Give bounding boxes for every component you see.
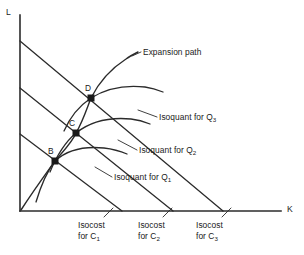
diagram-canvas: L K B C D Expansion path Isoquant for Q3… — [0, 0, 304, 255]
isocost-label-c1: Isocost for C1 — [78, 220, 106, 242]
isocost-label-c1-sub: 1 — [96, 235, 100, 242]
leader-line-isoquant-q3 — [138, 110, 157, 117]
tangency-point-d — [88, 95, 95, 102]
isoquant-curve-q3 — [64, 86, 163, 131]
isoquant-label-q3-sub: 3 — [213, 116, 217, 123]
isoquant-curve-q2 — [50, 119, 150, 172]
isoquant-label-q2: Isoquant for Q2 — [139, 145, 197, 156]
isocost-label-c3-line1: Isocost — [196, 220, 224, 230]
isoquant-label-q3: Isoquant for Q3 — [159, 112, 217, 123]
production-expansion-path-diagram: L K B C D Expansion path Isoquant for Q3… — [0, 0, 304, 255]
isocost-label-c2-sub: 2 — [156, 235, 160, 242]
isocost-label-c2-prefix: for C — [138, 231, 156, 241]
isocost-label-c2: Isocost for C2 — [138, 220, 166, 242]
isoquant-label-q1: Isoquant for Q1 — [114, 172, 172, 183]
point-label-c: C — [69, 118, 75, 128]
leader-lines-group — [95, 52, 231, 217]
expansion-path-label: Expansion path — [143, 47, 202, 57]
isoquant-label-q1-prefix: Isoquant for Q — [114, 172, 168, 182]
isoquant-label-q1-sub: 1 — [168, 176, 172, 183]
isocost-label-c1-line1: Isocost — [78, 220, 106, 230]
isocost-label-c1-line2: for C1 — [78, 231, 100, 242]
isocost-line-c1 — [20, 134, 122, 211]
isocost-line-c3 — [20, 41, 223, 211]
point-label-d: D — [85, 83, 91, 93]
leader-line-isocost-c1 — [104, 208, 113, 217]
isocost-label-c1-prefix: for C — [78, 231, 96, 241]
point-label-b: B — [48, 146, 54, 156]
isocost-lines-group — [20, 41, 223, 211]
isocost-label-c2-line1: Isocost — [138, 220, 166, 230]
isocost-label-c2-line2: for C2 — [138, 231, 160, 242]
leader-line-isocost-c2 — [163, 208, 172, 217]
isoquant-label-q3-prefix: Isoquant for Q — [159, 112, 213, 122]
labor-axis-label: L — [6, 7, 11, 17]
isoquant-label-q2-prefix: Isoquant for Q — [139, 145, 193, 155]
isocost-label-c3-line2: for C3 — [196, 231, 218, 242]
leader-line-isocost-c3 — [222, 208, 231, 217]
isoquant-label-q2-sub: 2 — [193, 149, 197, 156]
capital-axis-label: K — [287, 204, 293, 214]
isocost-label-c3: Isocost for C3 — [196, 220, 224, 242]
leader-line-isoquant-q1 — [95, 167, 112, 177]
leader-line-isoquant-q2 — [118, 140, 137, 150]
tangency-point-b — [52, 158, 59, 165]
isocost-label-c3-prefix: for C — [196, 231, 214, 241]
isocost-label-c3-sub: 3 — [214, 235, 218, 242]
tangency-point-c — [73, 130, 80, 137]
